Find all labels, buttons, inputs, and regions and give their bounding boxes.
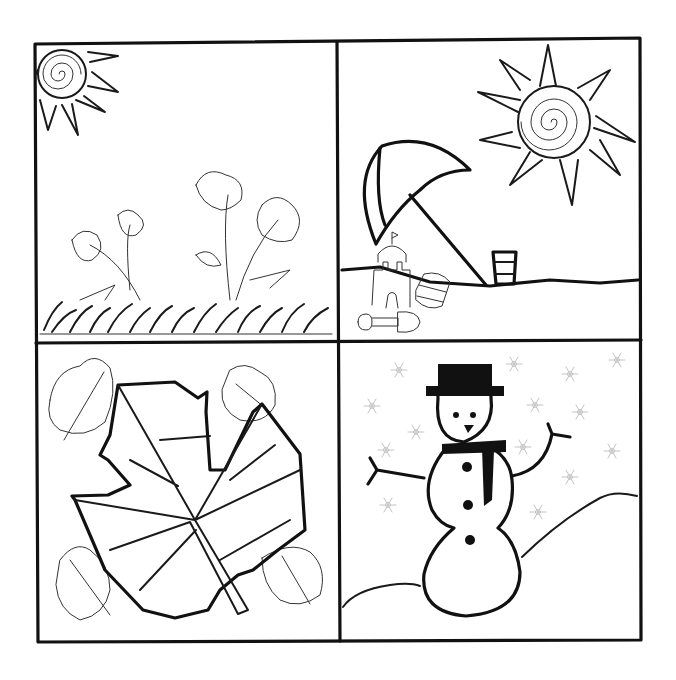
panel-autumn — [49, 358, 323, 620]
panel-spring — [36, 50, 332, 334]
frame — [35, 38, 641, 642]
flowers — [72, 172, 300, 300]
panel-summer — [342, 45, 638, 332]
snowman-icon — [368, 364, 570, 616]
bucket-icon — [493, 252, 516, 284]
seasons-illustration — [0, 0, 676, 680]
beach — [342, 267, 638, 286]
snowflakes — [364, 353, 625, 519]
shovel-icon — [358, 312, 420, 333]
grass — [40, 302, 332, 334]
panel-winter — [343, 353, 637, 616]
snow-hills — [343, 493, 637, 607]
sun-icon — [36, 50, 118, 135]
scarf-icon — [442, 440, 506, 506]
top-hat-icon — [438, 364, 492, 386]
small-leaves — [49, 358, 323, 620]
sun-icon — [478, 45, 635, 205]
